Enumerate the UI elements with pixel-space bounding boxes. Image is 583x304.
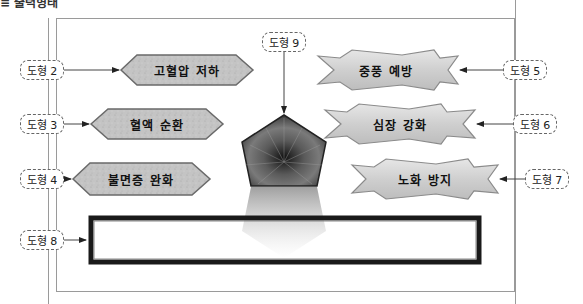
- label-shape-2: 도형 2: [20, 60, 64, 80]
- pentagon-shape-9: [242, 115, 326, 186]
- label-shape-6: 도형 6: [513, 114, 557, 134]
- label-shape-8: 도형 8: [20, 230, 64, 250]
- label-shape-3: 도형 3: [20, 114, 64, 134]
- label-shape-9: 도형 9: [262, 32, 306, 52]
- label-shape-7: 도형 7: [525, 169, 569, 189]
- label-shape-4: 도형 4: [20, 169, 64, 189]
- shape-6-text: 심장 강화: [373, 116, 426, 133]
- shape-5-text: 중풍 예방: [359, 62, 412, 79]
- shape-3-text: 혈액 순환: [130, 116, 183, 133]
- shape-2-text: 고혈압 저하: [154, 62, 219, 79]
- shape-4-text: 불면증 완화: [108, 171, 173, 188]
- label-shape-5: 도형 5: [503, 60, 547, 80]
- shape-7-text: 노화 방지: [398, 171, 451, 188]
- pentagon-reflection: [242, 187, 326, 258]
